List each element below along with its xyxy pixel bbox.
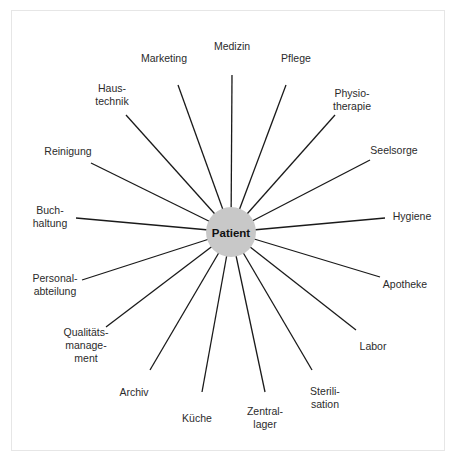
node-label-line: Haus-: [95, 82, 128, 95]
node-label-apotheke: Apotheke: [383, 278, 427, 291]
node-label-line: Reinigung: [44, 145, 91, 158]
node-label-line: Sterili-: [310, 385, 340, 398]
node-label-haustechnik: Haus-technik: [95, 82, 128, 108]
node-label-medizin: Medizin: [214, 40, 250, 53]
node-label-line: sation: [310, 398, 340, 411]
node-label-line: Zentral-: [247, 405, 283, 418]
node-label-buchhaltung: Buch-haltung: [33, 204, 67, 230]
node-label-seelsorge: Seelsorge: [370, 144, 417, 157]
node-label-line: Labor: [360, 340, 387, 353]
node-label-line: haltung: [33, 217, 67, 230]
node-label-line: Küche: [182, 412, 212, 425]
node-label-line: lager: [247, 418, 283, 431]
node-label-line: ment: [64, 352, 109, 365]
node-label-sterilisation: Sterili-sation: [310, 385, 340, 411]
node-label-line: Marketing: [141, 52, 187, 65]
node-label-line: therapie: [333, 100, 371, 113]
node-label-line: Medizin: [214, 40, 250, 53]
node-label-zentrallager: Zentral-lager: [247, 405, 283, 431]
node-label-pflege: Pflege: [281, 52, 311, 65]
node-label-hygiene: Hygiene: [393, 210, 432, 223]
node-label-personalabteilung: Personal-abteilung: [33, 272, 78, 298]
node-label-line: technik: [95, 95, 128, 108]
node-label-reinigung: Reinigung: [44, 145, 91, 158]
node-label-qualitaetsmanagement: Qualitäts-manage-ment: [64, 326, 109, 365]
node-label-line: Apotheke: [383, 278, 427, 291]
node-label-line: Physio-: [333, 87, 371, 100]
node-label-line: Hygiene: [393, 210, 432, 223]
node-label-line: Seelsorge: [370, 144, 417, 157]
node-label-marketing: Marketing: [141, 52, 187, 65]
node-label-line: Pflege: [281, 52, 311, 65]
node-label-physiotherapie: Physio-therapie: [333, 87, 371, 113]
node-label-labor: Labor: [360, 340, 387, 353]
node-label-line: Personal-: [33, 272, 78, 285]
node-label-line: manage-: [64, 339, 109, 352]
node-label-line: Qualitäts-: [64, 326, 109, 339]
node-label-archiv: Archiv: [119, 386, 148, 399]
node-label-kueche: Küche: [182, 412, 212, 425]
node-label-line: Archiv: [119, 386, 148, 399]
node-label-line: abteilung: [33, 285, 78, 298]
center-node-label: Patient: [212, 227, 250, 239]
node-label-line: Buch-: [33, 204, 67, 217]
